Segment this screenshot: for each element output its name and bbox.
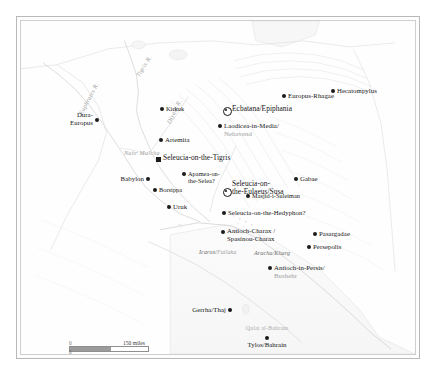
scale-bar-miles-track bbox=[69, 346, 149, 352]
place-label-laodicea-media: Laodicea-in-Media/Nehavend bbox=[224, 122, 279, 138]
city-marker-dot-icon bbox=[167, 205, 171, 209]
place-label-apamea-selea: Apamea-on-the-Selea? bbox=[188, 170, 220, 184]
city-marker-dot-icon bbox=[222, 211, 226, 215]
scale-bar-miles-fill bbox=[70, 347, 111, 351]
island-ancient-name: Aracha/Kharg bbox=[254, 249, 290, 256]
place-label-gabae: Gabae bbox=[300, 175, 318, 183]
place-label-antioch-persis: Antioch-in-Persis/Bushehr bbox=[274, 264, 325, 280]
city-marker-dot-icon bbox=[294, 177, 298, 181]
place-label-seleucia-hedyphon: Seleucia-on-the-Hedyphon? bbox=[228, 209, 306, 217]
city-marker-dot-icon bbox=[221, 230, 225, 234]
city-marker-dot-icon bbox=[95, 118, 99, 122]
place-label-artemita: Artemita bbox=[165, 136, 190, 144]
city-marker-dot-icon bbox=[313, 232, 317, 236]
place-label-gerrha-thaj: Gerrha/Thaj bbox=[192, 306, 226, 314]
place-label-antioch-charax: Antioch-Charax /Spasinou-Charax bbox=[227, 227, 275, 243]
place-label-masjid-suleiman: Masjid-i-Suleiman bbox=[252, 192, 300, 199]
city-marker-dot-icon bbox=[182, 172, 186, 176]
place-label-dura-europus: Dura-Europus bbox=[70, 111, 93, 127]
modern-site-label-qalat-al-bahrain: Qalat al-Bahrain bbox=[246, 324, 289, 331]
city-marker-dot-icon bbox=[146, 177, 150, 181]
city-marker-dot-icon bbox=[160, 107, 164, 111]
city-marker-dot-icon bbox=[246, 194, 250, 198]
city-marker-square-icon bbox=[156, 157, 161, 162]
bahrain-island bbox=[243, 304, 249, 314]
place-label-persepolis: Persepolis bbox=[313, 243, 341, 251]
historical-map-figure: Tigris R.Euphrates R.Diyala R.Nahr Malch… bbox=[0, 0, 436, 381]
city-marker-dot-icon bbox=[218, 124, 222, 128]
city-marker-dot-icon bbox=[265, 336, 269, 340]
lake-urmia bbox=[169, 50, 187, 60]
scale-bar-miles-label: 150 miles bbox=[123, 340, 145, 346]
island-ancient-name: Icarus/ bbox=[199, 248, 217, 255]
lake-van bbox=[131, 41, 145, 49]
place-label-uruk: Uruk bbox=[173, 203, 187, 211]
island-label-aracha-kharg: Aracha/Kharg bbox=[254, 249, 290, 256]
place-modern-name-antioch-persis: Bushehr bbox=[274, 272, 325, 280]
place-label-seleucia-tigris: Seleucia-on-the-Tigris bbox=[163, 154, 230, 162]
city-marker-dot-icon bbox=[307, 245, 311, 249]
place-label-kirkuk: Kirkuk bbox=[166, 105, 184, 112]
place-label-tylos-bahrain: Tylos/Bahrain bbox=[247, 341, 286, 349]
place-modern-name-laodicea-media: Nehavend bbox=[224, 130, 279, 138]
map-neatline-inner: Tigris R.Euphrates R.Diyala R.Nahr Malch… bbox=[20, 20, 416, 355]
city-marker-dot-icon bbox=[268, 266, 272, 270]
city-marker-circled-icon bbox=[223, 107, 232, 116]
place-label-pasargadae: Pasargadae bbox=[319, 230, 350, 238]
terrain-layer bbox=[21, 21, 415, 354]
city-marker-circled-icon bbox=[223, 188, 232, 197]
place-label-hecatompylus: Hecatompylus bbox=[337, 87, 377, 95]
island-label-icarus-failaka: Icarus/Failaka bbox=[199, 248, 237, 255]
city-marker-dot-icon bbox=[282, 94, 286, 98]
place-label-babylon: Babylon bbox=[121, 175, 144, 183]
city-marker-dot-icon bbox=[153, 188, 157, 192]
island-modern-name: Failaka bbox=[217, 248, 237, 255]
scale-bar-zero-km: 0 bbox=[69, 349, 72, 355]
scale-bar-miles-row: 0 150 miles bbox=[69, 346, 181, 353]
place-label-europus-rhagae: Europus-Rhagae bbox=[288, 92, 334, 100]
city-marker-dot-icon bbox=[331, 89, 335, 93]
failaka-island bbox=[178, 224, 183, 227]
place-label-borsippa: Borsippa bbox=[159, 186, 182, 193]
scale-bar: 0 150 miles 0 300 km bbox=[69, 346, 181, 355]
place-label-ecbatana: Ecbatana/Epiphania bbox=[232, 105, 292, 113]
city-marker-dot-icon bbox=[159, 138, 163, 142]
city-marker-dot-icon bbox=[228, 308, 232, 312]
scale-bar-zero-miles: 0 bbox=[69, 340, 72, 346]
